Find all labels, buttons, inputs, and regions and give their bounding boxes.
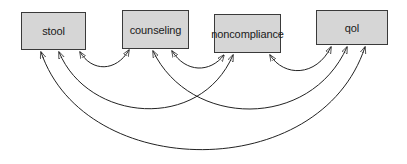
node-qol: qol bbox=[316, 10, 388, 45]
edge-stool-counseling bbox=[80, 50, 129, 67]
edge-stool-noncompliance bbox=[59, 52, 233, 109]
node-counseling: counseling bbox=[122, 10, 189, 49]
node-noncompliance: noncompliance bbox=[214, 14, 281, 53]
node-label-stool: stool bbox=[42, 25, 65, 37]
node-stool: stool bbox=[21, 12, 86, 50]
edge-counseling-noncompliance bbox=[172, 51, 224, 68]
edge-counseling-qol bbox=[153, 47, 347, 109]
node-label-counseling: counseling bbox=[130, 24, 182, 36]
node-label-qol: qol bbox=[345, 22, 359, 34]
node-label-noncompliance: noncompliance bbox=[211, 28, 284, 40]
path-diagram: stool counseling noncompliance qol bbox=[0, 0, 407, 164]
